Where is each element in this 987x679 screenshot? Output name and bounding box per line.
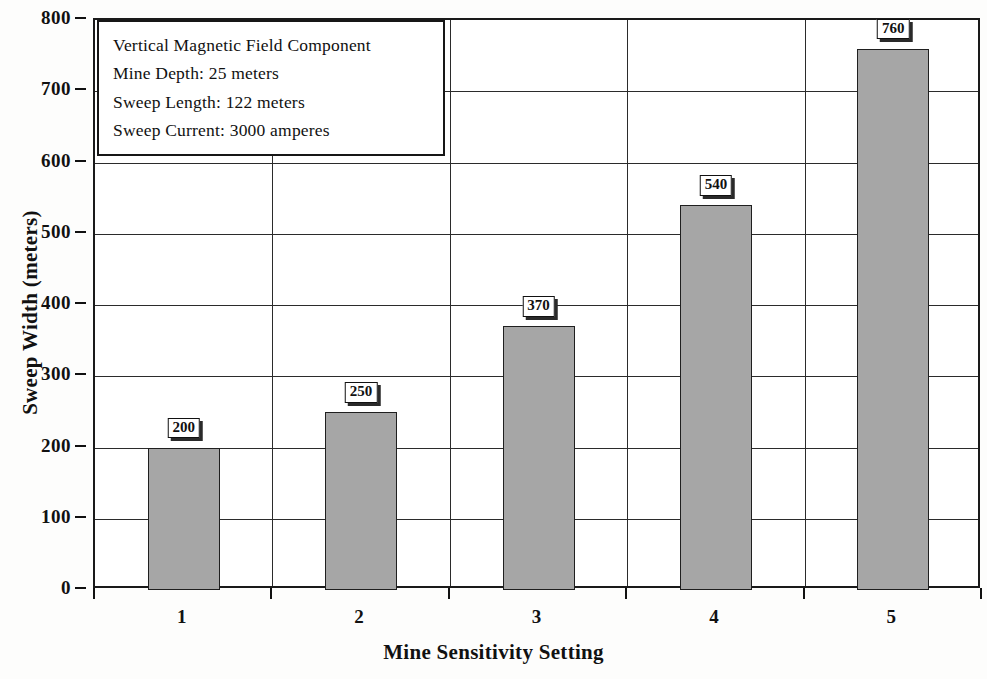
bar xyxy=(325,412,397,590)
x-tick-label: 2 xyxy=(354,606,364,628)
y-tick-mark xyxy=(75,302,86,304)
bar-value-label: 370 xyxy=(522,296,555,317)
y-tick-label: 800 xyxy=(41,7,71,29)
x-tick-label: 5 xyxy=(887,606,897,628)
y-tick-label: 400 xyxy=(41,292,71,314)
x-axis-title: Mine Sensitivity Setting xyxy=(0,640,987,665)
bar-value-label: 250 xyxy=(345,382,378,403)
bar-value-label: 200 xyxy=(167,418,200,439)
x-tick-label: 1 xyxy=(177,606,187,628)
y-tick-mark xyxy=(75,17,86,19)
y-tick-mark xyxy=(75,231,86,233)
y-gridline xyxy=(95,234,978,235)
y-tick-mark xyxy=(75,160,86,162)
y-tick-label: 200 xyxy=(41,435,71,457)
y-tick-label: 700 xyxy=(41,78,71,100)
annotation-line: Sweep Length: 122 meters xyxy=(113,88,429,116)
x-tick-label: 4 xyxy=(709,606,719,628)
x-gridline xyxy=(450,20,451,586)
x-tick-mark xyxy=(448,588,450,599)
x-gridline xyxy=(627,20,628,586)
annotation-line: Sweep Current: 3000 amperes xyxy=(113,116,429,144)
annotation-box: Vertical Magnetic Field Component Mine D… xyxy=(97,20,445,156)
y-tick-label: 600 xyxy=(41,150,71,172)
x-tick-mark xyxy=(980,588,982,599)
x-tick-mark xyxy=(625,588,627,599)
y-tick-label: 300 xyxy=(41,363,71,385)
bar-value-label: 760 xyxy=(877,19,910,40)
y-tick-mark xyxy=(75,587,86,589)
x-gridline xyxy=(805,20,806,586)
chart-page: Sweep Width (meters) 0100200300400500600… xyxy=(0,0,987,679)
annotation-line: Mine Depth: 25 meters xyxy=(113,59,429,87)
y-tick-label: 500 xyxy=(41,221,71,243)
bar xyxy=(680,205,752,590)
bar xyxy=(148,448,220,591)
y-axis: 0100200300400500600700800 xyxy=(0,0,93,610)
y-tick-label: 100 xyxy=(41,506,71,528)
annotation-line: Vertical Magnetic Field Component xyxy=(113,31,429,59)
y-tick-mark xyxy=(75,445,86,447)
bar xyxy=(857,49,929,591)
x-tick-mark xyxy=(270,588,272,599)
y-tick-mark xyxy=(75,88,86,90)
x-tick-mark xyxy=(93,588,95,599)
x-tick-label: 3 xyxy=(532,606,542,628)
y-tick-mark xyxy=(75,373,86,375)
y-tick-mark xyxy=(75,516,86,518)
y-tick-label: 0 xyxy=(61,577,71,599)
bar-value-label: 540 xyxy=(700,175,733,196)
x-tick-mark xyxy=(803,588,805,599)
bar xyxy=(503,326,575,590)
y-gridline xyxy=(95,163,978,164)
